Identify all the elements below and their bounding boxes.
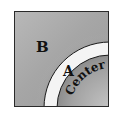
diagram-frame: B A Center [14,11,109,107]
label-b: B [36,38,49,56]
concentric-region-diagram: B A Center [15,12,109,107]
